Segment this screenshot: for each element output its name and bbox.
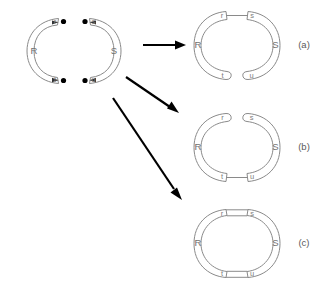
arrow-to-b (126, 77, 179, 113)
arrow-to-a (143, 41, 186, 50)
result-c-label-S: S (272, 237, 278, 248)
source-left-piece-R: r t R (27, 17, 66, 84)
result-c: r s t u R S (c) (194, 209, 310, 278)
result-b-label-s: s (250, 113, 254, 122)
diagram-canvas: r t R s u S (0, 0, 327, 291)
result-c-label-r: r (221, 209, 224, 218)
result-a-label-u: u (249, 71, 253, 80)
result-b-label-u: u (250, 172, 254, 181)
result-b-label-R: R (195, 141, 202, 152)
result-b-label-S: S (272, 141, 278, 152)
result-a-label-S: S (272, 39, 278, 50)
result-a-caption: (a) (298, 39, 310, 50)
result-b-label-r: r (221, 113, 224, 122)
arrow-to-c-shaft (113, 98, 174, 189)
arrow-to-a-head (175, 41, 186, 50)
source-label-u: u (91, 75, 95, 84)
result-c-label-u: u (250, 269, 254, 278)
result-c-caption: (c) (298, 237, 309, 248)
result-b: r s t u R S (b) (194, 113, 310, 182)
result-c-label-s: s (250, 209, 254, 218)
source-right-piece-S: s u S (82, 17, 121, 84)
result-c-label-R: R (195, 237, 202, 248)
result-a-label-t: t (221, 71, 224, 80)
result-a-label-s: s (250, 11, 254, 20)
figure-root: r t R s u S (0, 0, 327, 291)
result-b-caption: (b) (298, 141, 310, 152)
source-label-s: s (92, 17, 96, 26)
result-c-label-t: t (221, 269, 224, 278)
endpoint-dot-u (82, 78, 87, 83)
result-a-label-R: R (195, 39, 202, 50)
endpoint-dot-t (61, 78, 66, 83)
endpoint-dot-s (82, 19, 87, 24)
result-a-label-r: r (221, 11, 224, 20)
endpoint-dot-r (61, 19, 66, 24)
arrow-to-b-shaft (126, 77, 170, 107)
source-label-S: S (111, 45, 117, 56)
source-label-R: R (31, 45, 38, 56)
arrow-to-c-head (171, 188, 183, 201)
arrow-to-c (113, 98, 182, 200)
arrow-to-b-head (167, 102, 179, 114)
result-a: r s t u R S (a) (194, 11, 310, 80)
